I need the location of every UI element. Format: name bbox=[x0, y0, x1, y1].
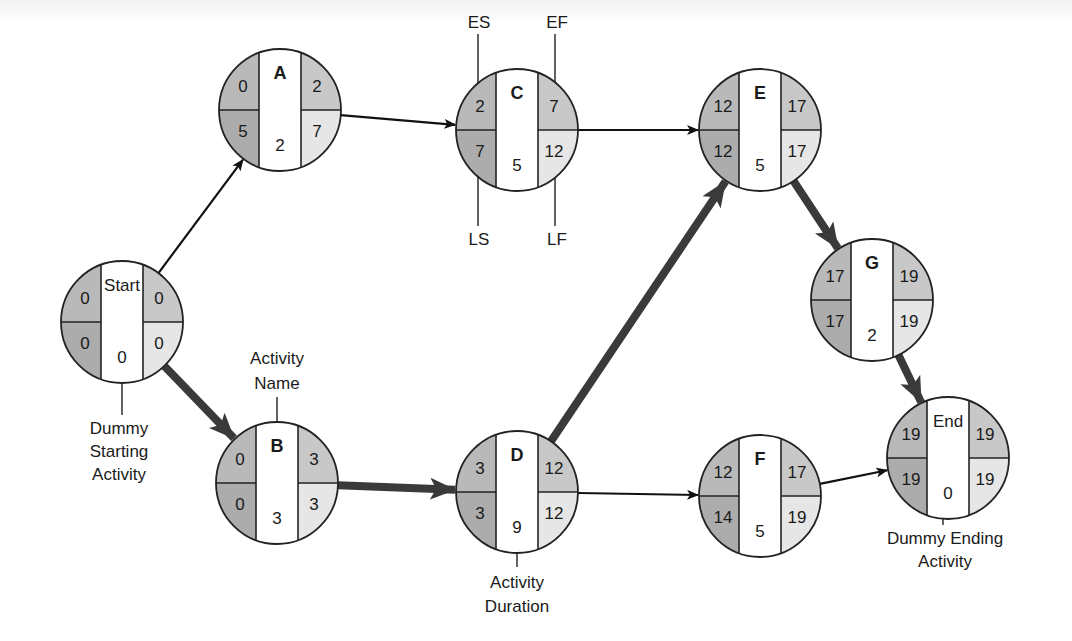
late-finish-value: 19 bbox=[976, 470, 995, 489]
late-finish-value: 3 bbox=[309, 495, 318, 514]
late-start-value: 14 bbox=[714, 508, 733, 527]
late-finish-value: 17 bbox=[788, 142, 807, 161]
early-finish-value: 7 bbox=[549, 97, 558, 116]
arrow-f-to-end bbox=[820, 470, 887, 484]
node-c: 27712C5 bbox=[456, 69, 578, 191]
early-start-value: 17 bbox=[826, 267, 845, 286]
early-start-value: 12 bbox=[714, 463, 733, 482]
arrow-start-to-a bbox=[158, 160, 242, 273]
late-start-value: 3 bbox=[475, 504, 484, 523]
early-finish-value: 19 bbox=[976, 425, 995, 444]
activity-name: F bbox=[755, 449, 766, 469]
arrow-a-to-c bbox=[341, 115, 455, 125]
activity-duration: 2 bbox=[275, 136, 284, 155]
node-g: 17191719G2 bbox=[811, 239, 933, 361]
activity-name: A bbox=[274, 63, 287, 83]
early-finish-value: 17 bbox=[788, 463, 807, 482]
activity-duration: 9 bbox=[512, 518, 521, 537]
early-start-value: 0 bbox=[80, 289, 89, 308]
activity-duration: 0 bbox=[943, 484, 952, 503]
activity-name: E bbox=[754, 83, 766, 103]
cpm-network-diagram: 0000Start00257A20303B327712C5312312D9121… bbox=[0, 0, 1072, 641]
early-start-value: 19 bbox=[902, 425, 921, 444]
early-finish-value: 17 bbox=[788, 97, 807, 116]
early-start-value: 3 bbox=[475, 459, 484, 478]
late-finish-value: 12 bbox=[545, 142, 564, 161]
early-start-value: 2 bbox=[475, 97, 484, 116]
dummy-end-label-line1: Dummy Ending bbox=[887, 529, 1003, 548]
late-start-value: 7 bbox=[475, 142, 484, 161]
node-d: 312312D9 bbox=[456, 431, 578, 553]
activity-name: B bbox=[271, 436, 284, 456]
late-start-value: 17 bbox=[826, 312, 845, 331]
late-start-value: 0 bbox=[80, 334, 89, 353]
activity-duration: 5 bbox=[755, 156, 764, 175]
activity-duration: 3 bbox=[272, 509, 281, 528]
node-f: 12171419F5 bbox=[699, 435, 821, 557]
activity-name: G bbox=[865, 253, 879, 273]
critical-path-arrow-b-to-d bbox=[338, 485, 455, 489]
early-finish-value: 12 bbox=[545, 459, 564, 478]
ls-label: LS bbox=[469, 230, 490, 249]
early-finish-value: 3 bbox=[309, 450, 318, 469]
early-start-value: 12 bbox=[714, 97, 733, 116]
activity-name: End bbox=[933, 412, 963, 431]
activity-name: C bbox=[511, 83, 524, 103]
arrow-d-to-f bbox=[578, 493, 698, 495]
activity-duration: 2 bbox=[867, 326, 876, 345]
node-start: 0000Start0 bbox=[61, 261, 183, 383]
late-finish-value: 12 bbox=[545, 504, 564, 523]
dummy-start-label-line2: Starting bbox=[90, 442, 149, 461]
lf-label: LF bbox=[547, 230, 567, 249]
es-label: ES bbox=[468, 13, 491, 32]
node-b: 0303B3 bbox=[216, 422, 338, 544]
activity-duration: 5 bbox=[755, 522, 764, 541]
late-start-value: 0 bbox=[235, 495, 244, 514]
late-finish-value: 19 bbox=[900, 312, 919, 331]
late-start-value: 5 bbox=[238, 122, 247, 141]
late-start-value: 12 bbox=[714, 142, 733, 161]
node-a: 0257A2 bbox=[219, 49, 341, 171]
activity-name: Start bbox=[104, 276, 140, 295]
activity-duration-label-line1: Activity bbox=[490, 573, 544, 592]
activity-duration: 0 bbox=[117, 348, 126, 367]
early-start-value: 0 bbox=[235, 450, 244, 469]
activity-duration-label-line2: Duration bbox=[485, 597, 549, 616]
late-finish-value: 19 bbox=[788, 508, 807, 527]
critical-path-arrow-start-to-b bbox=[164, 366, 234, 438]
critical-path-arrow-d-to-e bbox=[551, 181, 725, 441]
critical-path-arrow-e-to-g bbox=[794, 181, 838, 248]
ef-label: EF bbox=[546, 13, 568, 32]
activity-name-label-line2: Name bbox=[254, 374, 299, 393]
activity-duration: 5 bbox=[512, 156, 521, 175]
nodes-layer: 0000Start00257A20303B327712C5312312D9121… bbox=[61, 49, 1009, 557]
dummy-end-label-line2: Activity bbox=[918, 552, 972, 571]
dummy-start-label-line1: Dummy bbox=[90, 419, 149, 438]
activity-name-label-line1: Activity bbox=[250, 349, 304, 368]
late-finish-value: 7 bbox=[312, 122, 321, 141]
late-start-value: 19 bbox=[902, 470, 921, 489]
dummy-start-label-line3: Activity bbox=[92, 465, 146, 484]
node-end: 19191919End0 bbox=[887, 397, 1009, 519]
node-e: 12171217E5 bbox=[699, 69, 821, 191]
early-start-value: 0 bbox=[238, 77, 247, 96]
early-finish-value: 19 bbox=[900, 267, 919, 286]
early-finish-value: 2 bbox=[312, 77, 321, 96]
critical-path-arrow-g-to-end bbox=[898, 355, 921, 402]
early-finish-value: 0 bbox=[154, 289, 163, 308]
late-finish-value: 0 bbox=[154, 334, 163, 353]
activity-name: D bbox=[511, 445, 524, 465]
